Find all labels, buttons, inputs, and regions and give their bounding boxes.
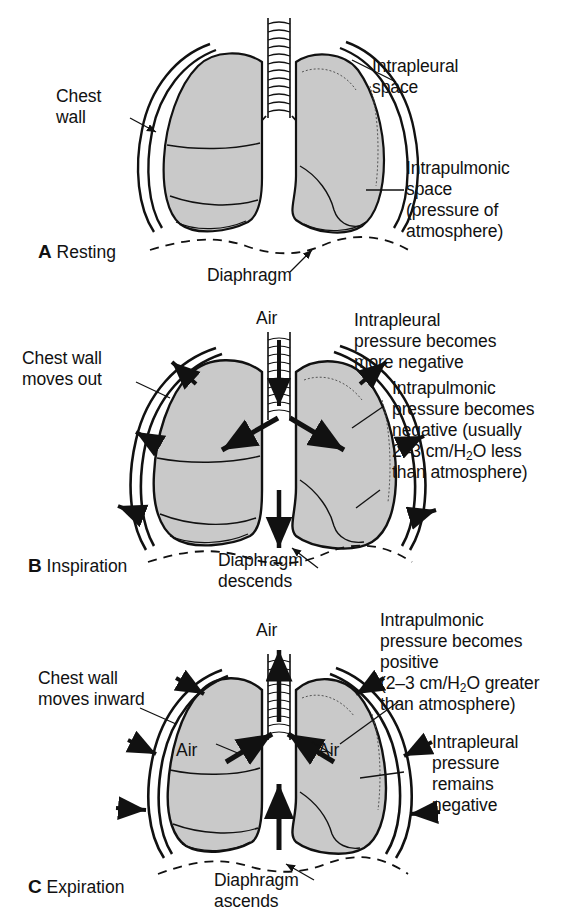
intrapulmonic-b-line4-pre: 2–3 cm/H xyxy=(392,441,466,461)
label-diaphragm-b: Diaphragm descends xyxy=(218,550,303,592)
panel-label-a: Resting xyxy=(57,242,116,262)
panel-tag-c: C Expiration xyxy=(28,876,124,898)
panel-label-c: Expiration xyxy=(47,877,125,897)
intrapulmonic-b-line4-sub: 2 xyxy=(466,449,473,463)
intrapulmonic-c-line3: positive xyxy=(380,652,439,672)
intrapulmonic-c-line5: than atmosphere) xyxy=(380,694,516,714)
chestwall-arrow-lower-left xyxy=(116,808,146,810)
label-intrapleural-c: Intrapleural pressure remains negative xyxy=(432,732,518,816)
panel-c-expiration: Air Air Air Chest wall moves inward Intr… xyxy=(0,592,583,912)
intrapulmonic-c-line3-row: positive xyxy=(380,652,439,673)
label-intrapleural-b: Intrapleural pressure becomes more negat… xyxy=(354,310,496,373)
intrapulmonic-b-line3: negative (usually xyxy=(392,420,522,440)
intrapulmonic-c-line1: Intrapulmonic xyxy=(380,610,484,630)
label-diaphragm-c: Diaphragm ascends xyxy=(214,870,299,912)
intrapulmonic-c-line5-row: than atmosphere) xyxy=(380,694,516,715)
intrapulmonic-b-line2: pressure becomes xyxy=(392,399,534,419)
label-air-b: Air xyxy=(256,308,277,329)
label-intrapleural-space-a: Intrapleural space xyxy=(372,56,458,98)
label-intrapulmonic-c: Intrapulmonic xyxy=(380,610,484,631)
lung-left xyxy=(154,360,262,545)
label-air-left-c: Air xyxy=(176,740,197,761)
label-chest-wall-c: Chest wall moves inward xyxy=(38,668,145,710)
intrapulmonic-c-line4-pre: (2–3 cm/H xyxy=(380,673,460,693)
panel-letter-b: B xyxy=(28,555,42,576)
label-diaphragm-a: Diaphragm xyxy=(207,265,292,286)
intrapulmonic-b-line1: Intrapulmonic xyxy=(392,378,496,398)
chestwall-arrow-mid-right xyxy=(404,742,432,756)
intrapulmonic-c-line4-post: O greater xyxy=(466,673,539,693)
chestwall-arrow-mid-left xyxy=(128,740,156,754)
panel-tag-b: B Inspiration xyxy=(28,555,127,577)
panel-letter-c: C xyxy=(28,876,42,897)
intrapulmonic-b-line4-post: O less xyxy=(473,441,522,461)
panel-tag-a: A Resting xyxy=(38,241,116,263)
panel-letter-a: A xyxy=(38,241,52,262)
label-intrapulmonic-b: Intrapulmonic xyxy=(392,378,496,399)
label-chest-wall-a: Chest wall xyxy=(56,86,101,128)
intrapulmonic-b-line3-row: negative (usually xyxy=(392,420,522,441)
intrapulmonic-b-line2-row: pressure becomes xyxy=(392,399,534,420)
intrapulmonic-c-line2-row: pressure becomes xyxy=(380,631,522,652)
label-air-top-c: Air xyxy=(256,620,277,641)
lung-right xyxy=(292,361,396,548)
intrapulmonic-b-line5-row: than atmosphere) xyxy=(392,462,528,483)
panel-b-inspiration: Air Chest wall moves out Intrapleural pr… xyxy=(0,300,583,592)
intrapulmonic-b-line5: than atmosphere) xyxy=(392,462,528,482)
label-air-right-c: Air xyxy=(318,740,339,761)
diaphragm-outline xyxy=(150,237,412,253)
label-intrapulmonic-space-a: Intrapulmonic space (pressure of atmosph… xyxy=(406,158,510,242)
label-chest-wall-b: Chest wall moves out xyxy=(22,348,102,390)
intrapulmonic-c-line2: pressure becomes xyxy=(380,631,522,651)
panel-a-resting: Chest wall Intrapleural space Intrapulmo… xyxy=(0,0,583,300)
lung-left xyxy=(164,53,262,231)
lung-right xyxy=(292,54,384,232)
panel-label-b: Inspiration xyxy=(47,556,128,576)
lung-left xyxy=(168,678,262,852)
